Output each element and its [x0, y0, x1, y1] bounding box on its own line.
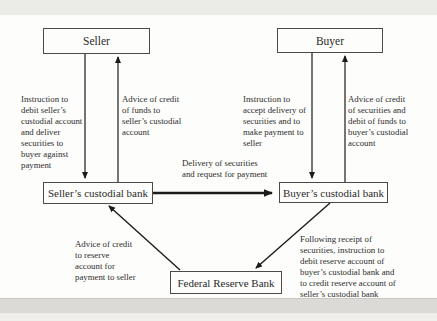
node-sellers-custodial-bank-label: Seller’s custodial bank — [48, 187, 148, 199]
label-instruction-accept-delivery: Instruction to accept delivery of securi… — [243, 94, 310, 149]
label-instruction-debit-seller: Instruction to debit seller’s custodial … — [21, 94, 85, 172]
label-advice-credit-securities-buyer: Advice of credit of securities and debit… — [348, 94, 412, 149]
node-seller-label: Seller — [83, 35, 110, 47]
label-advice-credit-funds-seller: Advice of credit of funds to seller’s cu… — [122, 94, 184, 138]
label-advice-credit-reserve: Advice of credit to reserve account for … — [75, 239, 137, 283]
node-buyers-custodial-bank-label: Buyer’s custodial bank — [283, 187, 384, 199]
settlement-flow-diagram: Seller Buyer Seller’s custodial bank Buy… — [0, 0, 437, 321]
node-federal-reserve-bank: Federal Reserve Bank — [170, 271, 282, 294]
node-sellers-custodial-bank: Seller’s custodial bank — [43, 182, 153, 204]
node-federal-reserve-bank-label: Federal Reserve Bank — [177, 277, 274, 289]
node-buyer: Buyer — [277, 28, 383, 53]
node-buyers-custodial-bank: Buyer’s custodial bank — [279, 182, 388, 203]
label-following-receipt: Following receipt of securities, instruc… — [300, 234, 402, 300]
label-delivery-request-payment: Delivery of securities and request for p… — [182, 158, 268, 180]
node-seller: Seller — [43, 28, 150, 54]
node-buyer-label: Buyer — [316, 35, 344, 47]
